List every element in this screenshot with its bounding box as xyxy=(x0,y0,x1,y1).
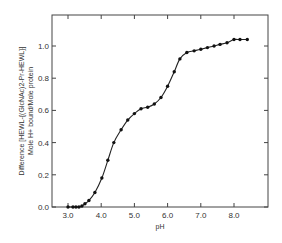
data-point xyxy=(185,51,188,54)
data-point xyxy=(146,105,149,108)
data-point xyxy=(206,46,209,49)
data-point xyxy=(119,128,122,131)
data-point xyxy=(212,44,215,47)
x-axis-label: pH xyxy=(156,223,165,231)
data-point xyxy=(87,199,90,202)
axis-ticks: 3.04.05.06.07.08.00.00.20.40.60.81.0 xyxy=(38,15,268,220)
data-point xyxy=(100,176,103,179)
x-tick-label: 4.0 xyxy=(96,211,108,220)
data-point xyxy=(218,43,221,46)
data-point xyxy=(166,85,169,88)
y-tick-label: 1.0 xyxy=(38,42,50,51)
data-points xyxy=(66,38,249,209)
data-point xyxy=(83,202,86,205)
y-tick-label: 0.0 xyxy=(38,203,50,212)
data-point xyxy=(71,205,74,208)
x-tick-label: 6.0 xyxy=(162,211,174,220)
data-point xyxy=(246,38,249,41)
x-tick-label: 5.0 xyxy=(129,211,141,220)
plot-frame xyxy=(52,15,268,207)
data-point xyxy=(106,159,109,162)
data-point xyxy=(66,205,69,208)
data-point xyxy=(232,38,235,41)
y-tick-label: 0.2 xyxy=(38,171,50,180)
data-point xyxy=(133,112,136,115)
y-axis-label-line1: Difference [HEWL-{(GlcNAc)2-Pr-HEWL}] xyxy=(18,46,26,175)
data-point xyxy=(238,38,241,41)
data-point xyxy=(93,191,96,194)
data-point xyxy=(139,107,142,110)
y-axis-label-line2: Mole H+ bound/Mole protein xyxy=(27,67,35,155)
data-point xyxy=(192,49,195,52)
data-point xyxy=(77,205,80,208)
x-tick-label: 7.0 xyxy=(195,211,207,220)
data-point xyxy=(178,57,181,60)
data-point xyxy=(74,205,77,208)
data-curve xyxy=(68,39,247,207)
data-point xyxy=(159,96,162,99)
data-point xyxy=(126,118,129,121)
y-tick-label: 0.4 xyxy=(38,139,50,148)
x-tick-label: 3.0 xyxy=(62,211,74,220)
y-tick-label: 0.8 xyxy=(38,74,50,83)
data-point xyxy=(153,102,156,105)
ph-titration-chart: 3.04.05.06.07.08.00.00.20.40.60.81.0 pH … xyxy=(0,0,282,243)
data-point xyxy=(225,41,228,44)
data-point xyxy=(80,204,83,207)
y-tick-label: 0.6 xyxy=(38,106,50,115)
data-point xyxy=(199,48,202,51)
x-tick-label: 8.0 xyxy=(228,211,240,220)
data-point xyxy=(112,141,115,144)
data-point xyxy=(173,70,176,73)
